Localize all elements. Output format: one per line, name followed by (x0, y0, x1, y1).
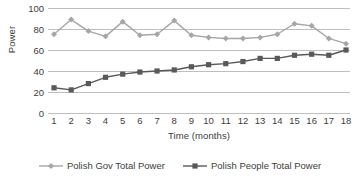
plot-area (48, 8, 350, 113)
x-axis-tick-label: 15 (289, 115, 300, 126)
gridline (48, 113, 350, 114)
series-marker (223, 35, 229, 41)
data-series (51, 47, 348, 92)
chart-container: Power 020406080100 123456789101112131415… (0, 0, 360, 185)
series-marker (292, 53, 297, 58)
series-marker (172, 67, 177, 72)
y-axis-tick-label: 0 (18, 108, 44, 119)
series-marker (343, 47, 348, 52)
series-marker (275, 56, 280, 61)
x-axis-tick-label: 16 (306, 115, 317, 126)
legend-item-label: Polish People Total Power (211, 160, 321, 171)
y-axis-tick-label: 100 (18, 3, 44, 14)
chart-legend: Polish Gov Total PowerPolish People Tota… (0, 160, 360, 171)
legend-square-marker-icon (183, 161, 207, 171)
series-marker (137, 69, 142, 74)
series-marker (206, 62, 211, 67)
legend-item[interactable]: Polish Gov Total Power (39, 160, 165, 171)
x-axis-tick-label: 2 (69, 115, 74, 126)
y-axis-title: Power (6, 8, 17, 72)
x-axis-tick-label: 6 (137, 115, 142, 126)
x-axis-tick-label: 7 (154, 115, 159, 126)
legend-item[interactable]: Polish People Total Power (183, 160, 321, 171)
series-marker (103, 75, 108, 80)
legend-item-label: Polish Gov Total Power (67, 160, 165, 171)
y-axis-tick-label: 60 (18, 45, 44, 56)
series-marker (154, 68, 159, 73)
series-marker (86, 81, 91, 86)
x-axis-tick-label: 3 (86, 115, 91, 126)
x-axis-tick-label: 18 (341, 115, 352, 126)
x-axis-tick-label: 8 (172, 115, 177, 126)
x-axis-tick-label: 13 (255, 115, 266, 126)
x-axis-tick-labels: 123456789101112131415161718 (48, 115, 350, 129)
data-series (51, 17, 349, 47)
x-axis-tick-label: 9 (189, 115, 194, 126)
x-axis-tick-label: 1 (51, 115, 56, 126)
series-marker (120, 72, 125, 77)
x-axis-tick-label: 10 (203, 115, 214, 126)
y-axis-tick-labels: 020406080100 (18, 8, 44, 113)
series-marker (69, 87, 74, 92)
y-axis-tick-label: 80 (18, 24, 44, 35)
series-marker (343, 41, 349, 47)
x-axis-title: Time (months) (48, 130, 350, 141)
series-marker (326, 53, 331, 58)
series-marker (240, 59, 245, 64)
x-axis-tick-label: 14 (272, 115, 283, 126)
x-axis-tick-label: 11 (221, 115, 231, 126)
series-marker (206, 34, 212, 40)
series-marker (257, 34, 263, 40)
y-axis-tick-label: 20 (18, 87, 44, 98)
x-axis-tick-label: 4 (103, 115, 108, 126)
legend-diamond-marker-icon (39, 161, 63, 171)
x-axis-tick-label: 12 (238, 115, 249, 126)
series-marker (309, 52, 314, 57)
y-axis-tick-label: 40 (18, 66, 44, 77)
series-line (54, 50, 346, 90)
series-marker (51, 85, 56, 90)
series-line (54, 20, 346, 44)
series-layer (48, 8, 350, 113)
series-marker (240, 35, 246, 41)
x-axis-tick-label: 5 (120, 115, 125, 126)
series-marker (189, 64, 194, 69)
series-marker (223, 61, 228, 66)
series-marker (258, 56, 263, 61)
x-axis-tick-label: 17 (324, 115, 335, 126)
